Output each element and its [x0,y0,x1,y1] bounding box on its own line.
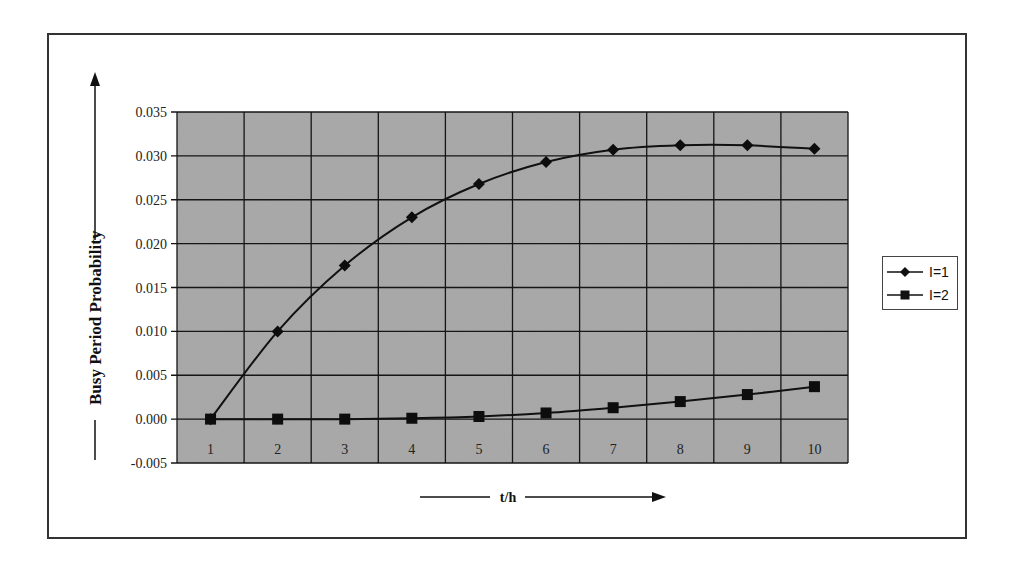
y-tick-label: 0.015 [136,281,168,296]
x-tick-label: 8 [677,442,684,457]
x-tick-label: 10 [807,442,821,457]
x-tick-label: 9 [744,442,751,457]
y-tick-label: 0.030 [136,149,168,164]
y-tick-label: 0.010 [136,324,168,339]
up-arrow-icon [90,72,100,86]
x-tick-label: 2 [274,442,281,457]
square-marker-icon [809,381,820,392]
y-tick-label: -0.005 [131,456,167,471]
plot-area [171,112,848,463]
y-tick-label: 0.025 [136,193,168,208]
x-tick-label: 7 [610,442,617,457]
x-axis-label: t/h [500,490,517,505]
y-axis-title: Busy Period Probability [86,72,105,460]
square-marker-icon [205,414,216,425]
legend-label: I=2 [929,287,949,303]
y-tick-label: 0.035 [136,105,168,120]
x-tick-label: 6 [543,442,550,457]
y-axis-label: Busy Period Probability [86,230,105,405]
square-marker-icon [473,411,484,422]
legend-label: I=1 [929,264,949,280]
legend: I=1 I=2 [882,256,958,310]
diamond-marker-icon [887,262,925,282]
x-tick-label: 4 [408,442,415,457]
square-marker-icon [541,407,552,418]
square-marker-icon [742,389,753,400]
x-tick-label: 5 [475,442,482,457]
square-marker-icon [887,285,925,305]
square-marker-icon [339,414,350,425]
legend-item-i1: I=1 [887,262,949,282]
square-marker-icon [608,402,619,413]
x-tick-label: 1 [207,442,214,457]
right-arrow-icon [652,492,666,502]
y-tick-label: 0.000 [136,412,168,427]
x-tick-label: 3 [341,442,348,457]
y-tick-label: 0.005 [136,368,168,383]
square-marker-icon [272,414,283,425]
y-axis-ticks: 0.0350.0300.0250.0200.0150.0100.0050.000… [131,105,167,471]
line-chart: 0.0350.0300.0250.0200.0150.0100.0050.000… [0,0,1016,570]
legend-item-i2: I=2 [887,285,949,305]
y-tick-label: 0.020 [136,237,168,252]
square-marker-icon [406,413,417,424]
square-marker-icon [675,396,686,407]
x-axis-title: t/h [420,490,666,505]
